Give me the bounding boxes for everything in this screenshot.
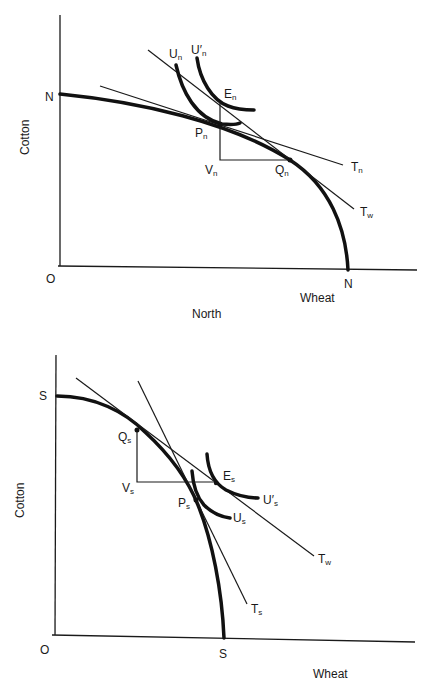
south-qs-point: [135, 428, 140, 433]
south-ppf-curve: [57, 396, 224, 638]
north-qn-label: Qn: [275, 163, 289, 178]
south-ppf-x-intercept-label: S: [219, 647, 227, 661]
north-panel: N N O Wheat North Cotton Un U′n En Pn Vn…: [18, 15, 417, 321]
north-ppf-y-intercept-label: N: [45, 90, 54, 104]
south-ps-point: [194, 498, 199, 503]
south-us-prime-label: U′s: [263, 493, 278, 508]
north-pn-point: [218, 123, 222, 127]
north-en-label: En: [224, 87, 236, 102]
north-caption: North: [192, 307, 221, 321]
south-es-label: Es: [223, 469, 235, 484]
south-ps-label: Ps: [178, 496, 190, 511]
north-un-label: Un: [169, 47, 182, 62]
north-x-axis: [58, 266, 417, 270]
south-x-axis: [52, 635, 415, 642]
trade-diagram: N N O Wheat North Cotton Un U′n En Pn Vn…: [0, 0, 434, 688]
south-qs-label: Qs: [118, 430, 131, 445]
north-qn-point: [288, 158, 293, 163]
north-y-axis-label: Cotton: [18, 120, 32, 155]
south-origin-label: O: [40, 643, 49, 657]
south-tw-line: [76, 378, 314, 556]
north-pn-label: Pn: [195, 126, 207, 141]
south-ppf-y-intercept-label: S: [39, 389, 47, 403]
south-y-axis-label: Cotton: [13, 483, 27, 518]
south-ts-label: Ts: [251, 602, 262, 617]
north-origin-label: O: [46, 272, 55, 286]
south-vs-label: Vs: [122, 481, 134, 496]
north-ppf-x-intercept-label: N: [344, 277, 353, 291]
south-us-label: Us: [233, 511, 246, 526]
north-tn-label: Tn: [351, 160, 363, 175]
north-un-prime-label: U′n: [191, 43, 206, 58]
north-vn-label: Vn: [205, 163, 217, 178]
north-un-prime-curve: [197, 58, 254, 110]
north-tw-label: Tw: [360, 205, 373, 220]
south-panel: S S O Wheat Cotton Qs Vs Es Ps U′s Us Tw…: [13, 355, 415, 681]
south-es-point: [214, 481, 218, 485]
south-x-axis-label: Wheat: [313, 667, 348, 681]
south-tw-label: Tw: [318, 552, 331, 567]
north-x-axis-label: Wheat: [300, 291, 335, 305]
